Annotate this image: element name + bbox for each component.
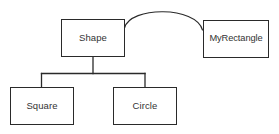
edge-shape-myrectangle-arc <box>125 12 203 30</box>
node-circle-label: Circle <box>133 101 158 111</box>
node-square[interactable]: Square <box>10 87 74 125</box>
node-square-label: Square <box>26 101 57 111</box>
node-shape-label: Shape <box>79 33 107 43</box>
class-diagram-canvas: Shape MyRectangle Square Circle <box>0 0 279 134</box>
node-circle[interactable]: Circle <box>113 87 177 125</box>
node-myrectangle[interactable]: MyRectangle <box>203 20 269 58</box>
node-myrectangle-label: MyRectangle <box>209 34 262 43</box>
node-shape[interactable]: Shape <box>61 19 125 57</box>
